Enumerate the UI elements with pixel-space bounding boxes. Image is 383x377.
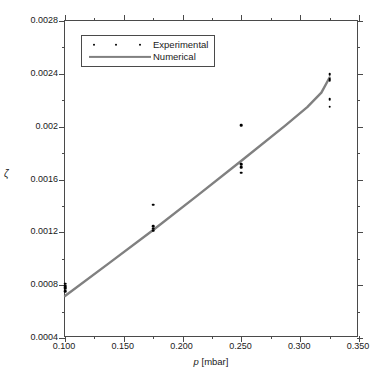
y-tick-label: 0.002 — [12, 121, 58, 131]
x-tick-label: 0.100 — [53, 341, 76, 351]
legend-dot-1 — [93, 44, 95, 46]
legend-label-experimental: Experimental — [153, 39, 208, 51]
chart-legend: Experimental Numerical — [81, 35, 215, 67]
y-tick-major-right — [357, 338, 363, 339]
legend-item-experimental: Experimental — [87, 39, 208, 51]
legend-key-line — [87, 51, 153, 63]
data-point — [240, 172, 243, 175]
data-point — [152, 203, 155, 206]
legend-label-numerical: Numerical — [153, 51, 196, 63]
x-tick-label: 0.350 — [347, 341, 370, 351]
legend-key-dots — [87, 39, 153, 51]
y-tick-label: 0.0016 — [12, 174, 58, 184]
data-point — [152, 229, 155, 232]
x-tick-label: 0.200 — [170, 341, 193, 351]
x-axis-title-unit: [mbar] — [202, 356, 229, 367]
y-tick-label: 0.0024 — [12, 68, 58, 78]
data-point — [328, 73, 331, 76]
legend-dot-3 — [139, 44, 141, 46]
data-point — [64, 290, 67, 293]
numerical-line — [65, 21, 359, 338]
series-layer — [65, 21, 357, 336]
y-tick-label: 0.0012 — [12, 226, 58, 236]
x-axis-title: p [mbar] — [194, 356, 229, 367]
x-tick-label: 0.250 — [229, 341, 252, 351]
x-tick-label: 0.300 — [288, 341, 311, 351]
chart-figure: ζ p [mbar] 0.1000.1500.2000.2500.3000.35… — [0, 0, 383, 377]
data-point — [328, 79, 331, 82]
plot-area — [64, 20, 358, 337]
y-tick-label: 0.0008 — [12, 279, 58, 289]
y-axis-title: ζ — [4, 168, 9, 179]
x-tick-label: 0.150 — [112, 341, 135, 351]
y-tick-label: 0.0004 — [12, 332, 58, 342]
legend-item-numerical: Numerical — [87, 51, 208, 63]
data-point — [328, 105, 331, 108]
data-point — [240, 124, 243, 127]
legend-line-swatch — [89, 56, 151, 58]
legend-dot-2 — [115, 44, 117, 46]
y-tick-major — [59, 338, 65, 339]
data-point — [328, 98, 331, 101]
y-tick-label: 0.0028 — [12, 15, 58, 25]
data-point — [240, 166, 243, 169]
